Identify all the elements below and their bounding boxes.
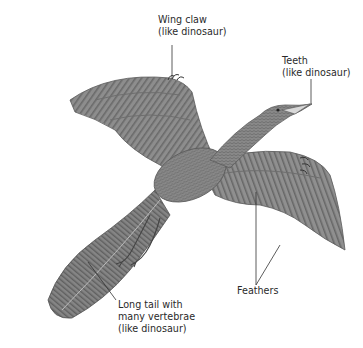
feathers-label: Feathers [237,285,278,297]
teeth-label-line2: (like dinosaur) [282,67,351,79]
feathers-label-line1: Feathers [237,285,278,297]
tail-label-line1: Long tail with [118,299,195,311]
teeth-label: Teeth (like dinosaur) [282,55,351,79]
tail-label: Long tail with many vertebrae (like dino… [118,299,195,335]
wing-claw-label-line2: (like dinosaur) [158,26,227,38]
eye [276,108,279,111]
archaeopteryx-diagram: Wing claw (like dinosaur) Teeth (like di… [0,0,363,348]
feathers-leader-2 [256,245,280,285]
tail-label-line2: many vertebrae [118,311,195,323]
wing-claw-label: Wing claw (like dinosaur) [158,14,227,38]
teeth-label-line1: Teeth [282,55,351,67]
archaeopteryx-illustration [0,0,363,348]
tail-label-line3: (like dinosaur) [118,323,195,335]
wing-claw-label-line1: Wing claw [158,14,227,26]
